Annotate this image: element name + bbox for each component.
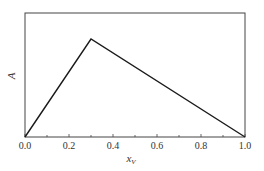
chart: 0.00.20.40.60.81.0 xV A (0, 0, 264, 171)
x-axis-label-sub: V (131, 158, 136, 166)
x-tick-label: 0.4 (107, 140, 120, 151)
x-tick-label: 1.0 (239, 140, 252, 151)
x-tick-label: 0.2 (63, 140, 76, 151)
x-axis-label: xV (125, 152, 136, 166)
data-line (25, 39, 245, 137)
x-tick-label: 0.0 (19, 140, 32, 151)
y-axis-label: A (5, 72, 17, 80)
x-tick-label: 0.6 (151, 140, 164, 151)
x-axis-tick-labels: 0.00.20.40.60.81.0 (19, 140, 252, 151)
x-tick-label: 0.8 (195, 140, 208, 151)
plot-frame (25, 13, 245, 137)
